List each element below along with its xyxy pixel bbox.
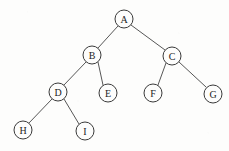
binary-tree-figure: A B C D E F	[0, 0, 229, 151]
edge-c-f	[158, 63, 166, 85]
node-label-i: I	[83, 126, 86, 137]
tree-node-e[interactable]: E	[99, 84, 117, 102]
edge-group	[29, 25, 206, 124]
node-label-a: A	[120, 14, 128, 25]
edge-b-d	[64, 62, 86, 85]
node-label-e: E	[105, 88, 111, 99]
tree-node-h[interactable]: H	[14, 121, 32, 139]
tree-node-g[interactable]: G	[204, 85, 222, 103]
tree-node-a[interactable]: A	[115, 10, 133, 28]
edge-a-b	[98, 26, 118, 48]
edge-a-c	[131, 25, 165, 50]
tree-node-i[interactable]: I	[76, 122, 94, 140]
edge-d-h	[29, 99, 52, 123]
edge-d-i	[64, 99, 79, 124]
node-label-d: D	[54, 87, 61, 98]
node-label-c: C	[169, 51, 176, 62]
tree-node-c[interactable]: C	[163, 47, 181, 65]
tree-node-b[interactable]: B	[83, 46, 101, 64]
tree-node-f[interactable]: F	[144, 84, 162, 102]
node-label-g: G	[209, 89, 216, 100]
node-label-f: F	[150, 88, 156, 99]
tree-canvas: A B C D E F	[0, 0, 229, 151]
edge-b-e	[98, 62, 103, 85]
node-group: A B C D E F	[14, 10, 222, 140]
node-label-h: H	[19, 125, 26, 136]
tree-node-d[interactable]: D	[49, 83, 67, 101]
edge-c-g	[179, 62, 206, 87]
node-label-b: B	[89, 50, 96, 61]
